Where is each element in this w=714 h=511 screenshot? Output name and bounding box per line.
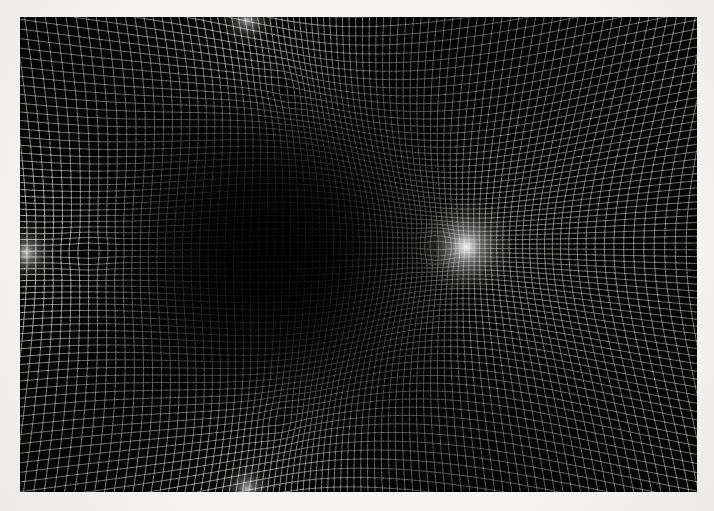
photographic-plate (20, 17, 697, 492)
warped-grid (20, 17, 697, 492)
image-canvas (0, 0, 714, 511)
